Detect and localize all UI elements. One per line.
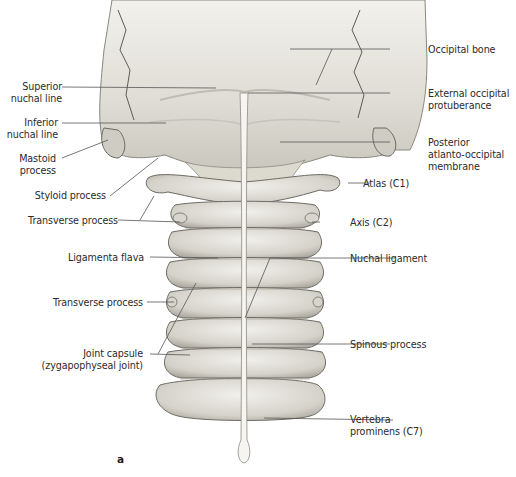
panel-letter: a bbox=[117, 453, 124, 465]
label-spinous-process: Spinous process bbox=[350, 339, 426, 351]
label-occipital-bone: Occipital bone bbox=[428, 44, 495, 56]
label-atlas-c1: Atlas (C1) bbox=[363, 178, 409, 190]
label-posterior-atlanto-occipital-membrane: Posterior atlanto-occipital membrane bbox=[428, 137, 504, 173]
label-axis-c2: Axis (C2) bbox=[350, 217, 392, 229]
occipital-bone-shape bbox=[100, 0, 427, 172]
label-vertebra-prominens-c7: Vertebra prominens (C7) bbox=[350, 414, 423, 438]
label-external-occipital-protuberance: External occipital protuberance bbox=[428, 88, 509, 112]
label-inferior-nuchal-line: Inferior nuchal line bbox=[0, 117, 58, 141]
label-styloid-process: Styloid process bbox=[0, 190, 106, 202]
label-superior-nuchal-line: Superior nuchal line bbox=[0, 81, 62, 105]
label-joint-capsule: Joint capsule (zygapophyseal joint) bbox=[0, 348, 143, 372]
cervical-spine-illustration bbox=[0, 0, 516, 477]
label-transverse-process-lower: Transverse process bbox=[0, 297, 143, 309]
label-ligamenta-flava: Ligamenta flava bbox=[0, 252, 144, 264]
label-transverse-process-upper: Transverse process bbox=[0, 215, 118, 227]
label-mastoid-process: Mastoid process bbox=[0, 153, 56, 177]
anatomy-figure: Superior nuchal line Inferior nuchal lin… bbox=[0, 0, 516, 477]
label-nuchal-ligament: Nuchal ligament bbox=[350, 253, 427, 265]
